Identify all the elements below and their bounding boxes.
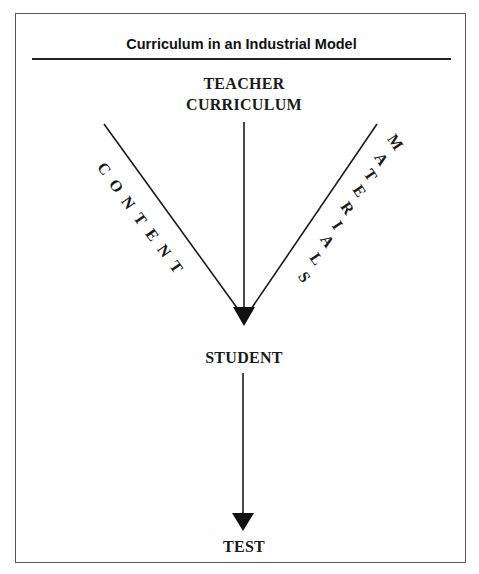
content-letter: T xyxy=(130,209,150,228)
materials-letter: I xyxy=(329,218,347,233)
content-letter: N xyxy=(118,193,139,213)
node-student: STUDENT xyxy=(144,349,344,367)
materials-edge xyxy=(249,124,377,312)
arrowhead-test-icon xyxy=(232,513,254,531)
arrowhead-student-icon xyxy=(233,307,255,326)
materials-letter: A xyxy=(317,231,338,250)
materials-letter: R xyxy=(337,198,358,217)
content-edge xyxy=(104,124,240,312)
node-test: TEST xyxy=(144,538,344,556)
flow-arrows: C O N T E N T M A T E R I A L S xyxy=(0,0,479,574)
content-letter: O xyxy=(106,176,127,196)
materials-letter: E xyxy=(350,182,370,200)
content-letter: E xyxy=(142,225,162,244)
content-letter: T xyxy=(166,257,186,276)
materials-letter: M xyxy=(384,131,407,153)
materials-letter: S xyxy=(295,268,314,285)
materials-letter: L xyxy=(307,250,327,268)
content-letter: N xyxy=(154,241,175,261)
content-letter: C xyxy=(94,159,115,178)
materials-label: M A T E R I A L S xyxy=(295,131,407,286)
